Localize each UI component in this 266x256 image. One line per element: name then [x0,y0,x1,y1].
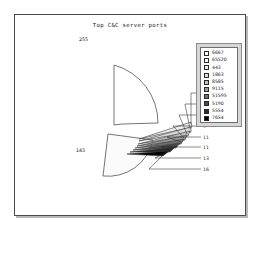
slice-value-label-255: 255 [79,37,88,42]
legend-item-51595[interactable]: 51595 [204,93,235,100]
legend-item-443[interactable]: 443 [204,64,235,71]
chart-legend: 6667 65520 443 1863 8585 [196,43,242,127]
callout-value-5: 11 [203,135,209,140]
legend-label: 7654 [212,116,224,121]
legend-label: 9115 [212,87,224,92]
legend-swatch-icon [204,87,209,92]
legend-item-9115[interactable]: 9115 [204,86,235,93]
legend-label: 8585 [212,80,224,85]
legend-item-1863[interactable]: 1863 [204,72,235,79]
legend-swatch-icon [204,73,209,78]
legend-item-6667[interactable]: 6667 [204,50,235,57]
legend-item-8585[interactable]: 8585 [204,79,235,86]
legend-swatch-icon [204,94,209,99]
legend-label: 65520 [212,58,227,63]
legend-swatch-icon [204,80,209,85]
legend-label: 5190 [212,102,224,107]
legend-swatch-icon [204,101,209,106]
pie-slice-6667[interactable] [114,65,158,125]
legend-swatch-icon [204,116,209,121]
legend-label: 5554 [212,109,224,114]
legend-item-7654[interactable]: 7654 [204,115,235,122]
legend-item-65520[interactable]: 65520 [204,57,235,64]
callout-value-6: 11 [203,145,209,150]
legend-label: 1863 [212,73,224,78]
callout-value-7: 13 [203,156,209,161]
legend-swatch-icon [204,109,209,114]
legend-swatch-icon [204,51,209,56]
callout-value-8: 16 [203,167,209,172]
legend-swatch-icon [204,65,209,70]
pie-chart-plot-area: 255 143 2 3 3 9 11 11 13 16 6667 65520 [15,15,247,217]
legend-label: 443 [212,66,221,71]
legend-item-5554[interactable]: 5554 [204,108,235,115]
legend-label: 51595 [212,94,227,99]
slice-value-label-143: 143 [76,148,85,153]
legend-inner-box: 6667 65520 443 1863 8585 [200,47,238,123]
chart-figure-frame: Top C&C server ports [14,14,246,216]
legend-swatch-icon [204,58,209,63]
legend-label: 6667 [212,51,224,56]
legend-item-5190[interactable]: 5190 [204,100,235,107]
